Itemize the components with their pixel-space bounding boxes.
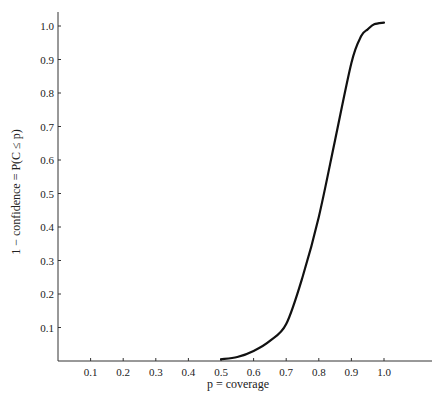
- y-tick-label: 1.0: [40, 20, 54, 32]
- x-axis-label: p = coverage: [207, 377, 269, 391]
- y-tick-label: 0.9: [40, 54, 54, 66]
- y-tick-label: 0.7: [40, 121, 54, 133]
- cumulative-curve: [221, 23, 384, 360]
- x-tick-label: 1.0: [377, 366, 391, 378]
- y-axis-label: 1 − confidence = P(C ≤ p): [9, 129, 23, 254]
- y-tick-label: 0.5: [40, 188, 54, 200]
- x-tick-label: 0.3: [149, 366, 163, 378]
- y-tick-label: 0.8: [40, 87, 54, 99]
- x-tick-label: 0.4: [182, 366, 196, 378]
- y-tick-label: 0.3: [40, 255, 54, 267]
- axes: [58, 12, 432, 361]
- x-tick-label: 0.9: [345, 366, 359, 378]
- x-tick-label: 0.8: [312, 366, 326, 378]
- x-tick-label: 0.1: [84, 366, 98, 378]
- y-tick-label: 0.2: [40, 288, 54, 300]
- y-tick-label: 0.1: [40, 322, 54, 334]
- coverage-confidence-chart: 0.10.20.30.40.50.60.70.80.91.0 0.10.20.3…: [0, 0, 443, 404]
- x-tick-label: 0.7: [279, 366, 293, 378]
- y-tick-label: 0.4: [40, 221, 54, 233]
- x-tick-label: 0.2: [116, 366, 130, 378]
- y-tick-label: 0.6: [40, 154, 54, 166]
